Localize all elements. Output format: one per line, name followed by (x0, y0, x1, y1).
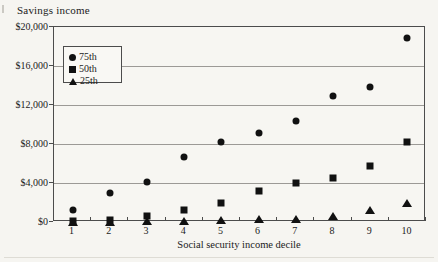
gridline-4000 (54, 183, 424, 184)
legend-item-25th: 25th (69, 75, 98, 87)
legend-label: 50th (79, 64, 97, 74)
gridline-8000 (54, 144, 424, 145)
point-50th-decile-5 (218, 200, 225, 207)
point-25th-decile-9 (365, 206, 375, 214)
x-tick-mark (276, 217, 277, 221)
point-50th-decile-1 (69, 218, 76, 225)
point-75th-decile-3 (144, 179, 151, 186)
legend: 75th50th25th (63, 46, 122, 83)
y-tick-mark (49, 104, 53, 105)
x-tick-mark (425, 217, 426, 221)
point-25th-decile-8 (328, 212, 338, 220)
point-50th-decile-4 (181, 207, 188, 214)
x-tick-mark (388, 217, 389, 221)
y-tick-mark (49, 65, 53, 66)
point-75th-decile-5 (218, 139, 225, 146)
x-tick-mark (165, 217, 166, 221)
point-75th-decile-6 (255, 130, 262, 137)
gridline-12000 (54, 105, 424, 106)
x-tick-label: 3 (136, 225, 156, 236)
circle-icon (69, 54, 76, 61)
x-tick-label: 5 (210, 225, 230, 236)
point-50th-decile-7 (292, 180, 299, 187)
point-50th-decile-8 (330, 175, 337, 182)
triangle-icon (69, 78, 77, 85)
x-tick-mark (53, 217, 54, 221)
x-tick-mark (239, 217, 240, 221)
point-75th-decile-4 (181, 153, 188, 160)
point-75th-decile-10 (404, 34, 411, 41)
y-tick-label: $16,000 (0, 61, 48, 71)
y-tick-label: $12,000 (0, 100, 48, 110)
x-tick-label: 8 (322, 225, 342, 236)
x-tick-label: 10 (396, 225, 416, 236)
point-50th-decile-6 (255, 187, 262, 194)
scatter-chart-figure: Savings income $0$4,000$8,000$12,000$16,… (0, 0, 438, 262)
square-icon (69, 66, 76, 73)
y-tick-mark (49, 143, 53, 144)
legend-label: 25th (80, 76, 98, 86)
scan-artifact-mark (2, 5, 4, 13)
y-tick-label: $4,000 (0, 178, 48, 188)
point-50th-decile-9 (367, 163, 374, 170)
y-tick-label: $8,000 (0, 139, 48, 149)
point-25th-decile-5 (216, 216, 226, 224)
legend-label: 75th (79, 52, 97, 62)
point-25th-decile-4 (179, 217, 189, 225)
y-tick-mark (49, 26, 53, 27)
x-tick-label: 7 (285, 225, 305, 236)
y-tick-mark (49, 182, 53, 183)
x-tick-mark (90, 217, 91, 221)
point-75th-decile-8 (330, 93, 337, 100)
legend-item-50th: 50th (69, 63, 97, 75)
x-tick-label: 1 (62, 225, 82, 236)
x-tick-mark (351, 217, 352, 221)
point-50th-decile-2 (106, 217, 113, 224)
y-tick-label: $20,000 (0, 22, 48, 32)
x-tick-label: 6 (248, 225, 268, 236)
point-25th-decile-10 (402, 199, 412, 207)
point-50th-decile-3 (144, 213, 151, 220)
point-50th-decile-10 (404, 139, 411, 146)
x-tick-label: 4 (173, 225, 193, 236)
point-25th-decile-6 (254, 215, 264, 223)
scan-artifact-line (4, 257, 434, 258)
x-tick-mark (127, 217, 128, 221)
chart-title: Savings income (17, 4, 90, 16)
point-75th-decile-2 (106, 189, 113, 196)
x-tick-label: 2 (99, 225, 119, 236)
x-tick-mark (202, 217, 203, 221)
point-25th-decile-7 (291, 215, 301, 223)
x-axis-title: Social security income decile (53, 239, 425, 250)
point-75th-decile-1 (69, 207, 76, 214)
x-tick-mark (313, 217, 314, 221)
y-tick-mark (49, 221, 53, 222)
y-tick-label: $0 (0, 217, 48, 227)
x-tick-label: 9 (359, 225, 379, 236)
legend-item-75th: 75th (69, 51, 97, 63)
point-75th-decile-7 (292, 117, 299, 124)
point-75th-decile-9 (367, 84, 374, 91)
